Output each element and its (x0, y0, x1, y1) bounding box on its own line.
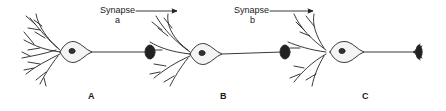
neuron-a-dendrites (22, 14, 60, 86)
neuron-c-label: C (362, 91, 369, 101)
synapse-b-label: Synapse (234, 6, 269, 15)
synapse-b-sub: b (250, 15, 255, 25)
neuron-b-label: B (220, 91, 227, 101)
neuron-a-label: A (88, 91, 95, 101)
synapse-a-label: Synapse (100, 6, 135, 15)
synapse-a-sub: a (115, 15, 120, 25)
